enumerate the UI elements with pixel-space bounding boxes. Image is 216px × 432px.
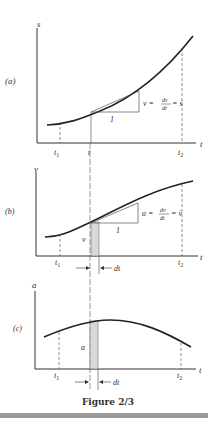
equation-a-rhs: = v̇ xyxy=(171,209,182,218)
figure-caption: Figure 2/3 xyxy=(82,397,134,407)
x-axis-label-t: t xyxy=(200,252,203,262)
strip-label-a: a xyxy=(81,343,85,352)
figure-canvas: s t (a) 1 v = ds dt = ṡ t1 t t2 v t (b) … xyxy=(0,0,216,432)
arrowhead xyxy=(85,380,89,384)
panel-b: v t (b) 1 v a = dv dt = v̇ t1 t2 dt xyxy=(5,164,203,274)
panel-label-c: (c) xyxy=(13,324,22,333)
panel-label-b: (b) xyxy=(5,207,15,216)
x-axis-label-t: t xyxy=(200,139,203,149)
slope-triangle xyxy=(91,91,139,112)
arrowhead xyxy=(100,266,104,270)
y-axis-label-v: v xyxy=(34,164,38,174)
arrowhead xyxy=(99,380,103,384)
slope-triangle xyxy=(91,203,138,223)
strip-label-v: v xyxy=(82,235,86,244)
equation-v-rhs: = ṡ xyxy=(172,99,183,108)
a-curve xyxy=(44,320,191,347)
tick-label-t2: t2 xyxy=(177,371,182,381)
tick-label-t1: t1 xyxy=(54,371,59,381)
slope-run-label: 1 xyxy=(116,226,120,235)
x-axis-label-t: t xyxy=(199,365,202,375)
tick-label-t2: t2 xyxy=(178,258,183,268)
tick-label-t: t xyxy=(88,148,91,157)
y-axis-label-a: a xyxy=(32,280,37,290)
panel-label-a: (a) xyxy=(5,76,16,86)
interval-label-dt: dt xyxy=(114,264,121,273)
panel-c: a t (c) a t1 t2 dt xyxy=(13,280,202,390)
equation-a-lhs: a = xyxy=(142,209,153,218)
a-strip xyxy=(90,321,98,369)
tick-label-t1: t1 xyxy=(55,258,60,268)
equation-v-den: dt xyxy=(162,105,167,111)
v-strip xyxy=(91,222,99,256)
equation-v-lhs: v = xyxy=(143,99,154,108)
tick-label-t1: t1 xyxy=(54,148,59,158)
equation-a-num: dv xyxy=(160,207,166,213)
section-rule xyxy=(0,413,208,418)
arrowhead xyxy=(86,266,90,270)
equation-v-num: ds xyxy=(162,97,168,103)
slope-run-label: 1 xyxy=(110,115,114,124)
interval-label-dt: dt xyxy=(113,378,120,387)
tick-label-t2: t2 xyxy=(178,148,183,158)
equation-a-den: dt xyxy=(160,215,165,221)
panel-a: s t (a) 1 v = ds dt = ṡ t1 t t2 xyxy=(5,19,203,158)
y-axis-label-s: s xyxy=(37,19,41,29)
